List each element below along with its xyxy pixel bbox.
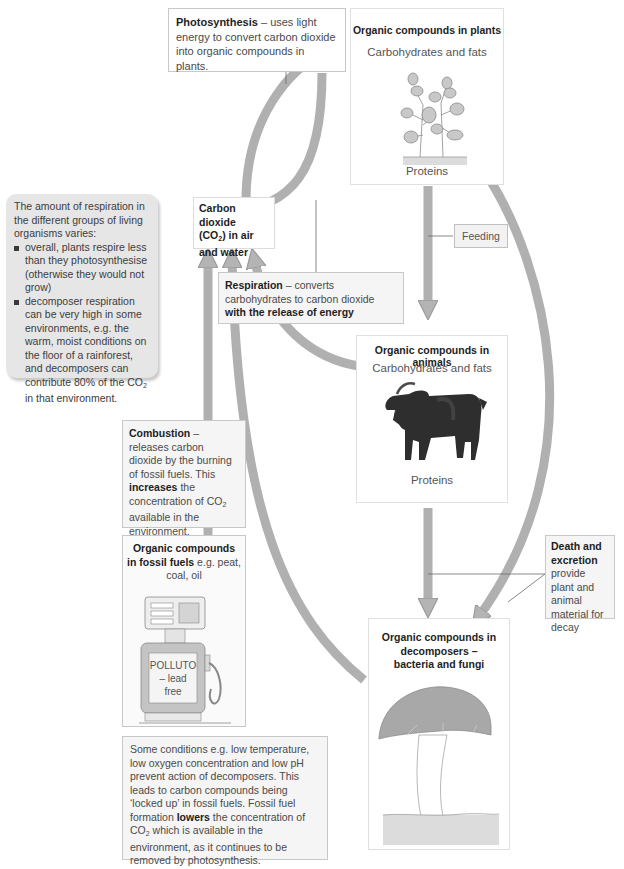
- respiration-variation-note: The amount of respiration in the differe…: [6, 194, 158, 378]
- respiration-note-intro: The amount of respiration in the differe…: [14, 200, 150, 241]
- co2-line1: Carbon dioxide: [199, 202, 269, 229]
- co2-box: Carbon dioxide (CO2) in air and water: [193, 197, 275, 249]
- co2-line3: and water: [199, 246, 269, 260]
- plant-illustration-icon: [395, 65, 475, 165]
- respiration-note-bullet: overall, plants respire less than they p…: [14, 241, 150, 295]
- fossil-fuels-box: Organic compounds in fossil fuels e.g. p…: [122, 535, 246, 727]
- animals-box: Organic compounds in animals Carbohydrat…: [356, 335, 508, 503]
- death-excretion-label-box: Death and excretion provide plant and an…: [545, 535, 615, 619]
- photosynthesis-term: Photosynthesis: [176, 16, 258, 28]
- feeding-label: Feeding: [454, 224, 508, 248]
- animals-proteins: Proteins: [357, 474, 507, 486]
- respiration-note-bullet: decomposer respiration can be very high …: [14, 295, 150, 406]
- plants-carbs: Carbohydrates and fats: [351, 46, 503, 58]
- plants-box: Organic compounds in plants Carbohydrate…: [350, 8, 504, 185]
- fossil-title: Organic compounds in fossil fuels e.g. p…: [127, 542, 241, 583]
- plants-title: Organic compounds in plants: [351, 24, 503, 36]
- decomposers-title: Organic compounds in decomposers – bacte…: [379, 631, 499, 672]
- respiration-label-box: Respiration – converts carbohydrates to …: [218, 272, 404, 324]
- fossil-formation-note: Some conditions e.g. low temperature, lo…: [122, 736, 328, 860]
- pump-label: POLLUTO – lead free: [149, 659, 197, 698]
- decomposers-box: Organic compounds in decomposers – bacte…: [368, 618, 510, 850]
- plants-proteins: Proteins: [351, 165, 503, 177]
- photosynthesis-label-box: Photosynthesis – uses light energy to co…: [168, 8, 346, 72]
- goat-illustration-icon: [379, 380, 489, 470]
- fuel-pump-illustration-icon: [139, 591, 235, 725]
- animals-carbs: Carbohydrates and fats: [357, 362, 507, 374]
- mushroom-illustration-icon: [373, 677, 507, 847]
- combustion-label-box: Combustion – releases carbon dioxide by …: [122, 420, 246, 528]
- co2-line2: (CO2) in air: [199, 229, 269, 246]
